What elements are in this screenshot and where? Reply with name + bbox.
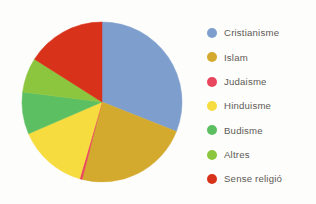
pie-slice-group xyxy=(22,22,182,182)
legend-swatch-judaisme xyxy=(207,77,217,87)
legend-item-sense-religio[interactable]: Sense religió xyxy=(207,172,316,186)
legend-label-islam: Islam xyxy=(224,53,248,63)
legend-item-budisme[interactable]: Budisme xyxy=(207,123,316,137)
legend-item-judaisme[interactable]: Judaisme xyxy=(207,75,316,89)
legend-swatch-islam xyxy=(207,52,217,62)
legend-label-cristianisme: Cristianisme xyxy=(224,28,279,38)
legend-label-sense-religio: Sense religió xyxy=(224,174,282,184)
legend-swatch-altres xyxy=(207,150,217,160)
legend-swatch-sense-religio xyxy=(207,174,217,184)
legend-item-hinduisme[interactable]: Hinduisme xyxy=(207,99,316,113)
legend-swatch-budisme xyxy=(207,125,217,135)
legend-label-hinduisme: Hinduisme xyxy=(224,101,271,111)
pie-chart-plot-area xyxy=(0,0,204,204)
pie-chart-svg xyxy=(0,0,204,204)
legend-swatch-hinduisme xyxy=(207,101,217,111)
legend-label-judaisme: Judaisme xyxy=(224,77,267,87)
legend-item-cristianisme[interactable]: Cristianisme xyxy=(207,26,316,40)
legend-item-islam[interactable]: Islam xyxy=(207,50,316,64)
pie-chart-figure: Cristianisme Islam Judaisme Hinduisme Bu… xyxy=(0,0,316,204)
legend-label-budisme: Budisme xyxy=(224,126,263,136)
legend-item-altres[interactable]: Altres xyxy=(207,148,316,162)
legend-label-altres: Altres xyxy=(224,150,250,160)
chart-legend: Cristianisme Islam Judaisme Hinduisme Bu… xyxy=(207,26,316,186)
legend-swatch-cristianisme xyxy=(207,28,217,38)
